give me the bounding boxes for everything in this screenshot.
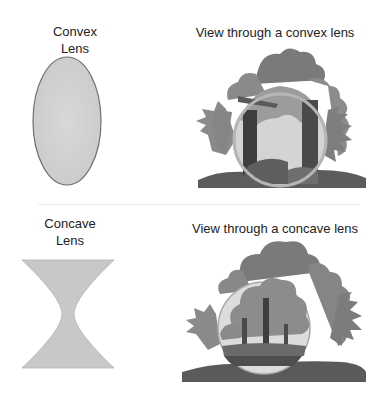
concave-lens-title: Concave Lens [20,215,120,249]
concave-lens-title-line2: Lens [20,232,120,249]
convex-lens-title-line1: Convex [30,23,120,40]
convex-view-illustration [188,40,370,195]
magnifier-lens-icon [234,86,326,186]
concave-lens-title-line1: Concave [20,215,120,232]
concave-view-illustration [180,234,370,384]
section-divider [38,204,360,205]
concave-lens-shape [18,258,118,370]
convex-lens-title: Convex Lens [30,23,120,57]
convex-view-title: View through a convex lens [180,24,370,41]
convex-lens-shape [28,54,106,188]
